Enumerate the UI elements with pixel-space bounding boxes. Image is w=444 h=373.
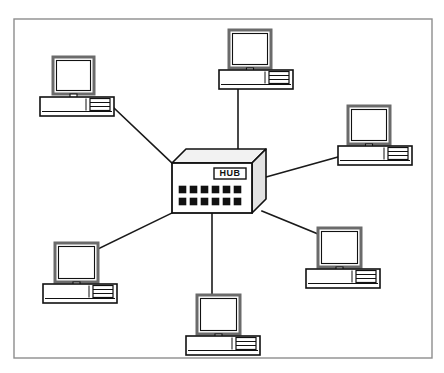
hub-port[interactable]	[223, 186, 230, 193]
hub-port[interactable]	[223, 198, 230, 205]
hub-port[interactable]	[190, 198, 197, 205]
device-layer: HUB	[40, 30, 412, 355]
monitor-screen	[201, 299, 237, 331]
cable-right-lower	[262, 211, 318, 234]
hub-port[interactable]	[212, 186, 219, 193]
cable-right-upper	[266, 157, 338, 177]
hub-label-text: HUB	[220, 168, 241, 178]
workstation-right-upper[interactable]	[338, 106, 412, 165]
monitor-screen	[233, 34, 268, 65]
monitor-screen	[57, 61, 91, 91]
hub-port[interactable]	[234, 186, 241, 193]
hub-port[interactable]	[201, 198, 208, 205]
cable-bottom-left	[98, 213, 172, 249]
workstation-right-lower[interactable]	[306, 228, 380, 288]
workstation-bottom-left[interactable]	[43, 243, 117, 303]
hub-port[interactable]	[190, 186, 197, 193]
monitor-screen	[322, 232, 358, 264]
workstation-top-center[interactable]	[219, 30, 293, 89]
monitor-screen	[59, 247, 95, 279]
network-diagram: HUB	[0, 0, 444, 373]
cable-top-left	[114, 108, 172, 163]
workstation-bottom-center[interactable]	[186, 295, 260, 355]
drive-bay	[269, 72, 289, 84]
drive-bay	[236, 338, 256, 350]
drive-bay	[388, 148, 408, 160]
hub-port[interactable]	[234, 198, 241, 205]
hub-top-face	[172, 149, 266, 163]
hub-port[interactable]	[201, 186, 208, 193]
hub-port[interactable]	[179, 186, 186, 193]
drive-bay	[93, 286, 113, 298]
hub-port[interactable]	[179, 198, 186, 205]
drive-bay	[90, 99, 110, 111]
drive-bay	[356, 271, 376, 283]
diagram-canvas: HUB	[0, 0, 444, 373]
hub-port[interactable]	[212, 198, 219, 205]
monitor-screen	[352, 110, 387, 141]
workstation-top-left[interactable]	[40, 57, 114, 116]
network-hub[interactable]: HUB	[172, 149, 266, 213]
